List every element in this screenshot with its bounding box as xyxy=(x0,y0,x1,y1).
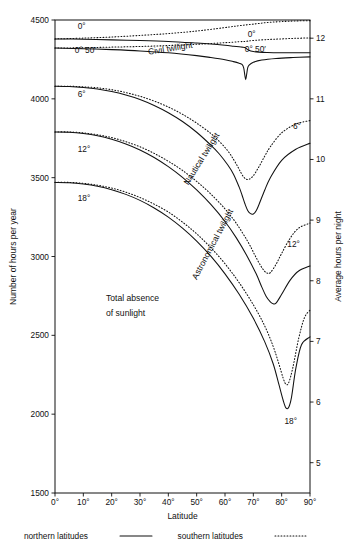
y-tick-label-left: 3000 xyxy=(31,252,50,262)
y-tick-label-right: 9 xyxy=(316,215,321,225)
y-tick-label-right: 6 xyxy=(316,397,321,407)
x-tick-label: 70° xyxy=(247,497,260,507)
x-tick-label: 20° xyxy=(105,497,118,507)
curve-label-left: 12° xyxy=(78,144,91,154)
x-tick-label: 10° xyxy=(77,497,90,507)
y-tick-label-right: 12 xyxy=(316,33,326,43)
twilight-hours-chart: 1500200025003000350040004500567891011120… xyxy=(0,0,353,548)
y-tick-label-left: 4000 xyxy=(31,94,50,104)
curve-label-right: 18° xyxy=(285,416,298,426)
x-tick-label: 50° xyxy=(190,497,203,507)
y-tick-label-left: 1500 xyxy=(31,488,50,498)
zone-label: of sunlight xyxy=(106,308,146,318)
x-tick-label: 80° xyxy=(275,497,288,507)
curve-label-right: 12° xyxy=(287,239,300,249)
curve-label-right: 0° xyxy=(248,29,256,39)
curve-label-left: 0° xyxy=(78,21,86,31)
legend-label: southern latitudes xyxy=(178,531,244,541)
y-tick-label-left: 3500 xyxy=(31,173,50,183)
y-tick-label-right: 11 xyxy=(316,94,325,104)
chart-background xyxy=(0,0,353,548)
curve-label-right: 6° xyxy=(293,121,301,131)
y-tick-label-left: 2000 xyxy=(31,409,50,419)
curve-label-left: 6° xyxy=(78,89,86,99)
x-tick-label: 60° xyxy=(219,497,232,507)
y-axis-title-left: Number of hours per year xyxy=(8,208,18,305)
curve-label-left: 0° 50′ xyxy=(75,45,96,55)
x-tick-label: 40° xyxy=(162,497,175,507)
x-tick-label: 0° xyxy=(51,497,59,507)
y-tick-label-right: 5 xyxy=(316,458,321,468)
y-tick-label-right: 10 xyxy=(316,154,326,164)
y-tick-label-right: 8 xyxy=(316,276,321,286)
y-axis-title-right: Average hours per night xyxy=(333,211,343,302)
curve-label-left: 18° xyxy=(78,193,91,203)
x-tick-label: 30° xyxy=(134,497,147,507)
x-tick-label: 90° xyxy=(304,497,317,507)
curve-label-right: 0° 50′ xyxy=(245,44,266,54)
legend-label: northern latitudes xyxy=(24,531,88,541)
y-tick-label-right: 7 xyxy=(316,336,321,346)
x-axis-title: Latitude xyxy=(167,511,198,521)
zone-label: Total absence xyxy=(106,293,159,303)
y-tick-label-left: 4500 xyxy=(31,15,50,25)
y-tick-label-left: 2500 xyxy=(31,330,50,340)
